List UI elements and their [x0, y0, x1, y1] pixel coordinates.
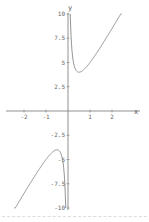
x-tick-label: -2 — [20, 113, 28, 120]
y-tick-label: -2.5 — [51, 131, 66, 138]
y-tick-label: -7.5 — [51, 180, 66, 187]
y-tick-label: 7.5 — [54, 34, 65, 41]
y-tick-label: 2.5 — [54, 83, 65, 90]
y-tick-label: -10 — [54, 204, 65, 211]
x-tick-label: -1 — [42, 113, 50, 120]
function-plot: -2-112 107.552.5-2.5-5-7.5-10 x y — [0, 0, 149, 222]
y-ticks: 107.552.5-2.5-5-7.5-10 — [51, 10, 70, 211]
x-tick-label: 1 — [88, 113, 92, 120]
y-tick-label: 5 — [61, 59, 65, 66]
x-tick-label: 2 — [110, 113, 114, 120]
y-tick-label: 10 — [58, 10, 66, 17]
curve-right-branch — [70, 14, 122, 72]
x-axis-label: x — [134, 108, 138, 116]
footer-divider — [2, 216, 147, 218]
y-axis-label: y — [68, 4, 72, 12]
